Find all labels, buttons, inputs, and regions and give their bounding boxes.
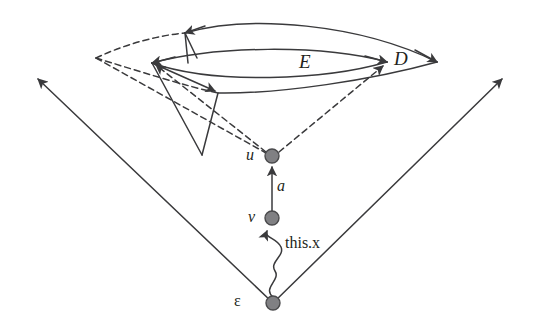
diagram-vector-layer [0, 0, 535, 328]
region-e-right-vertex-arrow [365, 56, 387, 62]
dashed-apex-to-u [96, 58, 266, 153]
set-d-label: D [394, 49, 408, 68]
edge-this-x-wavy [267, 231, 282, 297]
set-e-label: E [299, 52, 311, 71]
cone-ray-left [38, 79, 273, 303]
solid-inner-down [202, 93, 218, 155]
diagram-canvas: E D u v a this.x ε [0, 0, 535, 328]
edge-a-label: a [277, 178, 285, 194]
node-epsilon [266, 296, 280, 310]
dashed-apex-to-inner-vertex [96, 58, 218, 93]
region-d-right-vertex-arrow [415, 50, 437, 62]
node-u-label: u [246, 147, 254, 163]
node-v [265, 211, 279, 225]
dashed-u-to-right-vertex [279, 66, 383, 152]
node-v-label: v [248, 209, 255, 225]
region-e-lower-arc [152, 62, 387, 78]
cone-ray-right [273, 79, 502, 303]
region-e-left-vertex-arrow [152, 57, 175, 63]
dashed-apex-to-d-start [96, 33, 185, 58]
edge-thisx-label: this.x [285, 235, 320, 251]
node-epsilon-label: ε [234, 293, 241, 309]
node-u [265, 149, 279, 163]
